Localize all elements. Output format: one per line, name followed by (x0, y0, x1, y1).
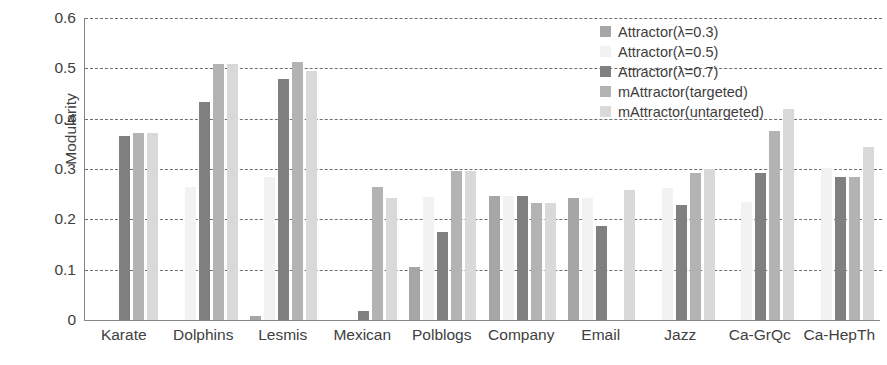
y-axis-tick-6: 0.6 (30, 10, 76, 26)
bar (531, 203, 542, 320)
bar (690, 173, 701, 320)
bar (264, 177, 275, 320)
bar (503, 196, 514, 320)
bar-group (801, 18, 881, 320)
legend-item: mAttractor(untargeted) (600, 102, 764, 121)
bar (704, 169, 715, 320)
bar (676, 205, 687, 320)
bar (306, 71, 317, 320)
x-axis-tick-1: Dolphins (164, 326, 244, 344)
bar (119, 136, 130, 320)
x-axis-tick-5: Company (482, 326, 562, 344)
bar (386, 198, 397, 320)
bar (278, 79, 289, 320)
y-axis-tick-0: 0 (30, 312, 76, 328)
bar (199, 102, 210, 320)
chart-legend: Attractor(λ=0.3)Attractor(λ=0.5)Attracto… (600, 22, 764, 121)
bar (372, 187, 383, 320)
bar-group (324, 18, 404, 320)
x-axis-tick-7: Jazz (641, 326, 721, 344)
bar-group (85, 18, 165, 320)
bar (755, 173, 766, 320)
bar (545, 203, 556, 320)
legend-swatch-icon (600, 26, 611, 37)
bar (662, 188, 673, 320)
legend-item: Attractor(λ=0.5) (600, 42, 764, 61)
legend-item: Attractor(λ=0.3) (600, 22, 764, 41)
bar (227, 64, 238, 320)
bar (423, 197, 434, 320)
bar (517, 196, 528, 320)
legend-label: mAttractor(targeted) (618, 84, 748, 100)
bar (133, 133, 144, 320)
y-axis-tick-2: 0.2 (30, 212, 76, 228)
y-axis-tick-5: 0.5 (30, 61, 76, 77)
legend-swatch-icon (600, 106, 611, 117)
x-axis-tick-0: Karate (84, 326, 164, 344)
x-axis-tick-3: Mexican (323, 326, 403, 344)
x-axis-tick-4: Polblogs (402, 326, 482, 344)
bar (863, 147, 874, 320)
modularity-bar-chart: Modularity 00.10.20.30.40.50.6 KarateDol… (0, 0, 887, 365)
bar (821, 168, 832, 321)
bar-group (403, 18, 483, 320)
legend-swatch-icon (600, 46, 611, 57)
x-axis-tick-9: Ca-HepTh (800, 326, 880, 344)
y-axis-tick-1: 0.1 (30, 262, 76, 278)
bar (568, 198, 579, 320)
bar (596, 226, 607, 320)
bar (451, 171, 462, 320)
bar (624, 190, 635, 320)
bar (835, 177, 846, 320)
x-axis-tick-6: Email (561, 326, 641, 344)
y-axis-tick-4: 0.4 (30, 111, 76, 127)
bar (849, 177, 860, 320)
bar (437, 232, 448, 320)
bar (582, 198, 593, 320)
bar-group (244, 18, 324, 320)
bar (465, 171, 476, 320)
bar (409, 267, 420, 320)
bar-group (165, 18, 245, 320)
x-axis-tick-labels: KarateDolphinsLesmisMexicanPolblogsCompa… (84, 326, 879, 344)
bar (250, 316, 261, 320)
legend-item: mAttractor(targeted) (600, 82, 764, 101)
legend-label: Attractor(λ=0.3) (618, 24, 718, 40)
x-axis-tick-2: Lesmis (243, 326, 323, 344)
y-axis-tick-labels: 00.10.20.30.40.50.6 (30, 18, 76, 320)
legend-swatch-icon (600, 66, 611, 77)
bar (358, 311, 369, 320)
bar (147, 133, 158, 320)
bar-group (483, 18, 563, 320)
y-axis-tick-3: 0.3 (30, 161, 76, 177)
bar (741, 202, 752, 320)
x-axis-tick-8: Ca-GrQc (720, 326, 800, 344)
bar (292, 62, 303, 320)
legend-label: Attractor(λ=0.5) (618, 44, 718, 60)
legend-item: Attractor(λ=0.7) (600, 62, 764, 81)
bar (783, 109, 794, 320)
bar (213, 64, 224, 320)
bar (769, 131, 780, 320)
bar (185, 187, 196, 320)
bar (489, 196, 500, 320)
legend-swatch-icon (600, 86, 611, 97)
legend-label: Attractor(λ=0.7) (618, 64, 718, 80)
legend-label: mAttractor(untargeted) (618, 104, 764, 120)
